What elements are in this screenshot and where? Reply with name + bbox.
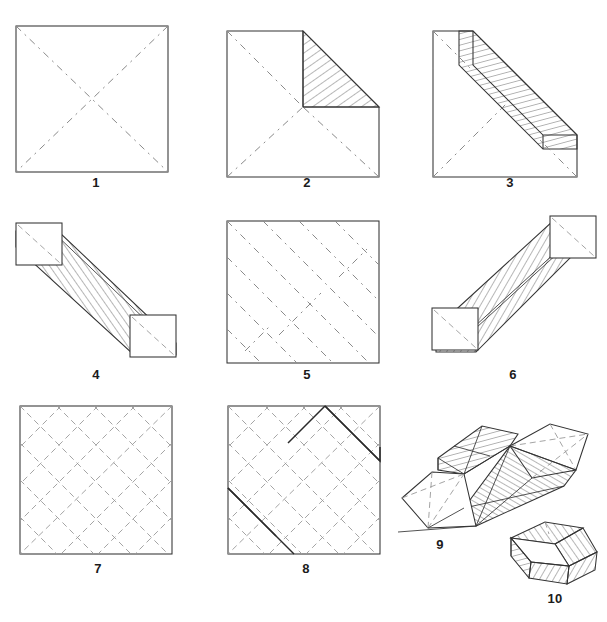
box-walls-10 [511,522,597,584]
step-label-9: 9 [410,538,470,552]
end-square-top-4 [16,223,62,265]
step-label-4: 4 [6,368,186,382]
step-label-2: 2 [221,176,393,190]
step-label-10: 10 [520,592,590,606]
step-label-8: 8 [222,562,390,576]
step-figure-5 [221,215,393,365]
square-outline-5 [227,221,379,363]
step-label-7: 7 [14,562,182,576]
step-label-3: 3 [427,176,593,190]
step-label-5: 5 [221,368,393,382]
collapsed-form-body-9 [398,424,588,532]
step-figure-2 [221,25,393,183]
step-label-1: 1 [10,176,182,190]
end-square-bottom-4 [130,315,176,357]
end-square-bottom-6 [432,308,478,350]
step-figure-1 [10,20,182,182]
diagram-sheet: 1 2 [0,0,607,622]
end-square-top-6 [550,216,596,258]
step-figure-10 [505,518,603,600]
step-label-6: 6 [424,368,602,382]
step-figure-7 [14,400,182,560]
step-figure-6 [424,210,602,365]
step-figure-3 [427,25,593,183]
step-figure-8 [222,400,390,560]
step-figure-4 [6,215,186,365]
hatched-flap-2 [303,31,379,107]
